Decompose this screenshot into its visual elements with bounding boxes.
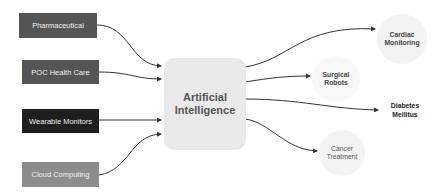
- input-label: Pharmaceutical: [32, 21, 84, 30]
- output-label-line2: Robots: [323, 79, 350, 88]
- output-label-line2: Treatment: [327, 153, 358, 162]
- output-label-line1: Cancer: [327, 145, 358, 154]
- edge-pharmaceutical-to-ai: [97, 25, 161, 66]
- center-label-line1: Artificial: [175, 91, 236, 104]
- input-poc-health-care: POC Health Care: [22, 60, 99, 84]
- input-label: Wearable Monitors: [29, 117, 92, 126]
- center-label-line2: Intelligence: [175, 104, 236, 117]
- edge-ai-to-cancer: [245, 119, 317, 151]
- edge-ai-to-diabetes: [245, 99, 378, 110]
- output-label-line1: Cardiac: [384, 31, 419, 40]
- edge-poc-to-ai: [99, 72, 161, 79]
- center-node-ai: Artificial Intelligence: [164, 58, 246, 150]
- input-wearable-monitors: Wearable Monitors: [22, 109, 99, 133]
- input-cloud-computing: Cloud Computing: [22, 162, 99, 187]
- output-label-line1: Diabetes: [380, 102, 430, 111]
- input-label: POC Health Care: [31, 68, 89, 77]
- output-surgical-robots: Surgical Robots: [312, 56, 360, 102]
- output-cardiac-monitoring: Cardiac Monitoring: [377, 14, 427, 64]
- output-label-line1: Surgical: [323, 71, 350, 80]
- edge-ai-to-surgical: [245, 76, 310, 82]
- input-label: Cloud Computing: [32, 170, 90, 179]
- output-label-line2: Mellitus: [380, 111, 430, 120]
- input-pharmaceutical: Pharmaceutical: [19, 13, 97, 38]
- edge-ai-to-cardiac: [245, 29, 375, 67]
- output-label-line2: Monitoring: [384, 39, 419, 48]
- edge-cloud-to-ai: [99, 134, 161, 175]
- output-cancer-treatment: Cancer Treatment: [319, 130, 365, 176]
- output-diabetes-mellitus: Diabetes Mellitus: [380, 102, 430, 119]
